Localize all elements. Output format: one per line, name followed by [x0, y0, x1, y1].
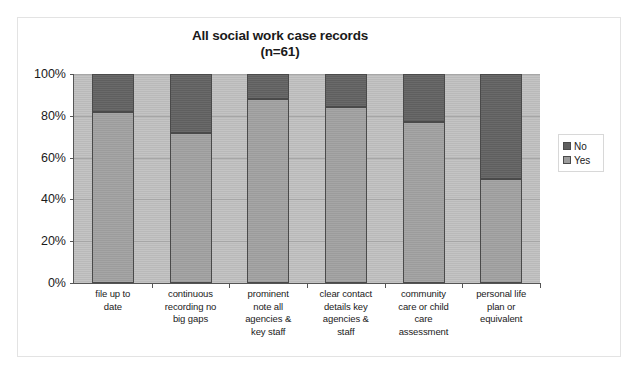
y-axis-tick-mark	[70, 283, 74, 284]
bar-column[interactable]	[403, 74, 445, 283]
x-axis-label-line: continuous	[152, 288, 230, 301]
x-axis-label-line: recording no	[152, 301, 230, 314]
x-axis-tick-label: clear contactdetails keyagencies &staff	[307, 288, 385, 338]
legend-label-yes: Yes	[574, 155, 590, 166]
x-axis-label-line: details key	[307, 301, 385, 314]
x-axis-tick-label: file up todate	[74, 288, 152, 313]
x-axis-tick-mark	[462, 284, 463, 288]
x-axis-tick-label: prominentnote allagencies &key staff	[229, 288, 307, 338]
bar-column[interactable]	[247, 74, 289, 283]
bar-segment-yes[interactable]	[325, 107, 367, 283]
x-axis-tick-mark	[307, 284, 308, 288]
bar-segment-no[interactable]	[247, 74, 289, 99]
chart-title: All social work case records (n=61)	[40, 28, 520, 60]
bar-segment-no[interactable]	[403, 74, 445, 122]
y-axis-tick-label: 80%	[6, 110, 66, 122]
x-axis-label-line: community	[385, 288, 463, 301]
bar-segment-no[interactable]	[480, 74, 522, 179]
gridline	[74, 158, 540, 159]
x-axis-tick-mark	[385, 284, 386, 288]
bar-segment-yes[interactable]	[170, 133, 212, 283]
x-axis-label-line: prominent	[229, 288, 307, 301]
x-axis-label-line: clear contact	[307, 288, 385, 301]
x-axis-tick-label: communitycare or childcareassessment	[385, 288, 463, 338]
x-axis-label-line: assessment	[385, 326, 463, 339]
y-axis-tick-mark	[70, 158, 74, 159]
chart-title-line1: All social work case records	[40, 28, 520, 44]
x-axis-label-line: personal life	[462, 288, 540, 301]
x-axis-tick-label: personal lifeplan orequivalent	[462, 288, 540, 326]
x-axis-tick-mark	[152, 284, 153, 288]
x-axis-label-line: equivalent	[462, 313, 540, 326]
bar-segment-no[interactable]	[325, 74, 367, 107]
chart-figure: All social work case records (n=61) 0%20…	[0, 0, 640, 376]
x-axis-tick-mark	[229, 284, 230, 288]
x-axis-tick-label: continuousrecording nobig gaps	[152, 288, 230, 326]
bar-segment-yes[interactable]	[403, 122, 445, 283]
bar-column[interactable]	[480, 74, 522, 283]
x-axis-label-line: date	[74, 301, 152, 314]
bar-segment-no[interactable]	[170, 74, 212, 133]
bar-column[interactable]	[325, 74, 367, 283]
y-axis-tick-label: 0%	[6, 277, 66, 289]
x-axis-label-line: plan or	[462, 301, 540, 314]
x-axis-label-line: care or child	[385, 301, 463, 314]
legend-item-yes[interactable]: Yes	[563, 153, 600, 167]
y-axis-tick-label: 60%	[6, 152, 66, 164]
y-axis-tick-label: 100%	[6, 68, 66, 80]
x-axis-label-line: care	[385, 313, 463, 326]
gridline	[74, 199, 540, 200]
bar-segment-yes[interactable]	[247, 99, 289, 283]
gridline	[74, 74, 540, 75]
legend-swatch-no-icon	[563, 142, 571, 150]
bar-segment-no[interactable]	[92, 74, 134, 112]
gridline	[74, 116, 540, 117]
y-axis-tick-mark	[70, 241, 74, 242]
bar-segment-yes[interactable]	[92, 112, 134, 283]
bar-column[interactable]	[92, 74, 134, 283]
x-axis-label-line: agencies &	[307, 313, 385, 326]
y-axis-tick-mark	[70, 74, 74, 75]
y-axis-tick-label: 20%	[6, 235, 66, 247]
y-axis-tick-mark	[70, 116, 74, 117]
bar-column[interactable]	[170, 74, 212, 283]
x-axis-label-line: big gaps	[152, 313, 230, 326]
y-axis-tick-mark	[70, 199, 74, 200]
plot-area	[74, 74, 540, 283]
legend-item-no[interactable]: No	[563, 139, 600, 153]
x-axis-label-line: staff	[307, 326, 385, 339]
x-axis-label-line: file up to	[74, 288, 152, 301]
x-axis-tick-mark	[540, 284, 541, 288]
y-axis-tick-label: 40%	[6, 193, 66, 205]
x-axis-label-line: key staff	[229, 326, 307, 339]
chart-legend: No Yes	[558, 134, 604, 172]
legend-swatch-yes-icon	[563, 156, 571, 164]
gridline	[74, 241, 540, 242]
chart-subtitle: (n=61)	[40, 44, 520, 60]
x-axis-label-line: agencies &	[229, 313, 307, 326]
bar-segment-yes[interactable]	[480, 179, 522, 284]
legend-label-no: No	[574, 141, 587, 152]
x-axis-label-line: note all	[229, 301, 307, 314]
